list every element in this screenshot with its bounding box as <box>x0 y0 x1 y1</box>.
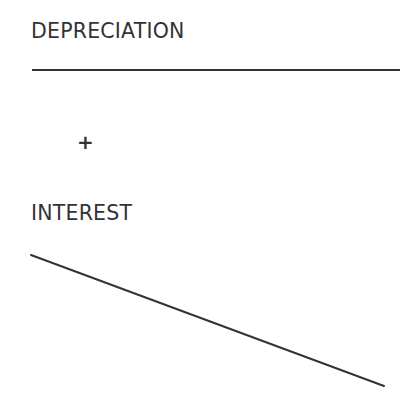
depreciation-label: DEPRECIATION <box>31 21 185 42</box>
interest-label: INTEREST <box>31 203 132 224</box>
plus-operator: + <box>77 132 94 152</box>
interest-declining-line <box>31 255 384 386</box>
